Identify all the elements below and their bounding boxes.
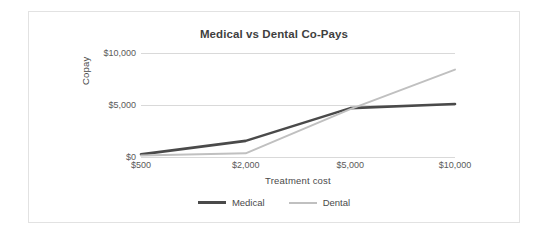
plot-area [141, 53, 455, 157]
x-axis-title: Treatment cost [141, 175, 455, 186]
legend-item-dental[interactable]: Dental [289, 197, 350, 208]
x-axis-tick-label: $500 [131, 160, 151, 170]
chart-title: Medical vs Dental Co-Pays [29, 28, 519, 40]
x-axis-tick-labels: $500$2,000$5,000$10,000 [141, 160, 455, 174]
chart-container: Medical vs Dental Co-Pays Copay $0$5,000… [28, 11, 520, 223]
legend-label: Dental [323, 197, 350, 208]
chart-legend: MedicalDental [29, 197, 519, 208]
y-axis-tick-label: $5,000 [108, 100, 136, 110]
x-axis-tick-label: $5,000 [337, 160, 365, 170]
legend-swatch-icon [198, 201, 226, 204]
series-line-medical [141, 104, 455, 154]
y-axis-tick-label: $10,000 [103, 48, 136, 58]
x-axis-tick-label: $10,000 [439, 160, 472, 170]
legend-item-medical[interactable]: Medical [198, 197, 265, 208]
gridline [141, 157, 455, 158]
series-lines [141, 53, 455, 157]
x-axis-tick-label: $2,000 [232, 160, 260, 170]
legend-label: Medical [232, 197, 265, 208]
y-axis-tick-labels: $0$5,000$10,000 [69, 53, 136, 157]
series-line-dental [141, 70, 455, 156]
legend-swatch-icon [289, 202, 317, 204]
